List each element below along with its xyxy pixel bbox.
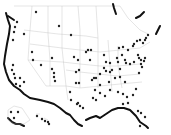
location-dot [77,59,79,61]
location-dot [14,77,16,79]
location-dot [117,61,119,63]
location-dot [32,59,34,61]
location-dot [99,84,101,86]
location-dot [109,71,111,73]
location-dot [69,91,71,93]
location-dot [89,59,91,61]
location-dot [92,97,94,99]
location-dot [85,51,87,53]
location-dot [51,68,53,70]
location-dot [70,34,72,36]
location-dot [82,107,84,109]
lake-huron [136,12,144,18]
location-dot [19,77,21,79]
location-dot [127,49,129,51]
location-dot [126,96,128,98]
state-borders [24,6,150,100]
location-dot [90,49,92,51]
location-dot [12,64,14,66]
location-dot [138,72,140,74]
location-dot [135,88,137,90]
location-dot [140,112,142,114]
location-dot [78,82,80,84]
map-svg [0,0,171,135]
location-dot [12,39,14,41]
location-dot [78,69,80,71]
location-dot [95,99,97,101]
location-dot [35,11,37,13]
location-dot [129,63,131,65]
location-dot [53,72,55,74]
west-gulf-coast [4,13,82,126]
location-dot [119,68,121,70]
location-dot [103,54,105,56]
location-dot [19,85,21,87]
location-dot [15,83,17,85]
location-dot [53,76,55,78]
location-dot [121,54,123,56]
location-dot [75,71,77,73]
location-dot [124,59,126,61]
location-dot [10,111,12,113]
us-dot-map [0,0,171,135]
location-dot [79,105,81,107]
location-dot [139,125,141,127]
location-dot [137,110,139,112]
location-dot [143,60,145,62]
location-dot [109,89,111,91]
location-dot [127,102,129,104]
location-dot [87,49,89,51]
location-dot [13,73,15,75]
location-dot [133,43,135,45]
location-dot [54,80,56,82]
location-dot [109,62,111,64]
location-dot [147,34,149,36]
location-dot [73,56,75,58]
location-dot [77,102,79,104]
coastlines [4,4,160,128]
location-dot [75,82,77,84]
location-dot [44,120,46,122]
location-dot [124,81,126,83]
location-dot [70,99,72,101]
location-dot [31,51,33,53]
location-dot [16,21,18,23]
location-dot [103,67,105,69]
location-dot [99,92,101,94]
location-dot [91,79,93,81]
location-dot [14,26,16,28]
location-dot [48,123,50,125]
puget-sound [8,16,14,20]
location-dot [17,111,19,113]
location-dot [122,46,124,48]
location-dot [132,94,134,96]
location-dot [111,69,113,71]
location-dot [40,64,42,66]
location-dot [108,81,110,83]
location-dot [140,59,142,61]
location-dot [137,54,139,56]
location-dot [58,25,60,27]
location-dot [138,57,140,59]
location-dot [51,57,53,59]
location-dot [116,57,118,59]
location-dot [104,95,106,97]
location-dot [139,39,141,41]
location-dot [23,81,25,83]
location-dot [36,115,38,117]
location-dot [99,73,101,75]
location-dot [23,33,25,35]
location-dot [142,42,144,44]
maine-coast [156,26,160,34]
location-dot [117,91,119,93]
location-dot [141,66,143,68]
alaska-coast [8,118,24,126]
location-dot [94,89,96,91]
location-dot [144,116,146,118]
location-dot [95,77,97,79]
location-dot [140,63,142,65]
location-dot [144,57,146,59]
location-dot [114,77,116,79]
location-dot [122,93,124,95]
location-dot [119,76,121,78]
